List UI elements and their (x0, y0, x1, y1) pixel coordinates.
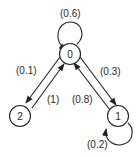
node-1-label: 1 (115, 111, 121, 122)
node-2: 2 (10, 106, 31, 127)
node-0: 0 (60, 44, 81, 65)
node-0-label: 0 (67, 49, 73, 60)
edge-label-1-1: (0.2) (87, 139, 108, 150)
edge-label-1-0: (0.8) (72, 94, 93, 105)
node-2-label: 2 (17, 111, 23, 122)
state-diagram: (0.6) (0.1) (1) (0.3) (0.8) (0.2) 0 2 1 (0, 0, 139, 157)
edge-label-0-0: (0.6) (60, 8, 81, 19)
diagram-svg: (0.6) (0.1) (1) (0.3) (0.8) (0.2) 0 2 1 (0, 0, 139, 157)
node-1: 1 (108, 106, 129, 127)
edge-label-0-2: (0.1) (16, 65, 37, 76)
edge-label-0-1: (0.3) (100, 66, 121, 77)
edge-label-2-0: (1) (47, 94, 59, 105)
